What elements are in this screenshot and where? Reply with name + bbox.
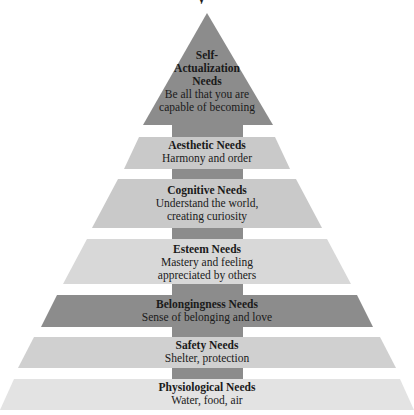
level-band-physiological-needs bbox=[0, 379, 414, 410]
level-band-belongingness-needs bbox=[41, 295, 373, 327]
level-band-cognitive-needs bbox=[92, 179, 322, 228]
self-actualization-triangle bbox=[143, 13, 273, 125]
level-band-aesthetic-needs bbox=[124, 137, 290, 169]
pyramid-diagram bbox=[0, 0, 414, 415]
level-band-esteem-needs bbox=[63, 239, 351, 284]
level-band-safety-needs bbox=[18, 337, 396, 368]
